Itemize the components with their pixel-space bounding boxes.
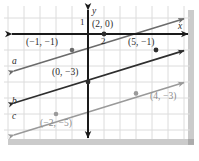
point-label-0-neg3: (0, −3) bbox=[52, 68, 79, 78]
coordinate-plane-figure: x y 1 2 a b c (2, 0) (−1, −1) (5, −1) (0… bbox=[0, 0, 199, 161]
point-label-4-neg3: (4, −3) bbox=[150, 92, 177, 102]
line-label-b: b bbox=[12, 97, 17, 107]
point-label-2-0: (2, 0) bbox=[92, 20, 113, 30]
tick-label-two: 2 bbox=[101, 37, 106, 46]
point-label-neg2-neg5: (−2, −5) bbox=[40, 119, 72, 129]
line-label-a: a bbox=[12, 57, 17, 67]
y-axis-label: y bbox=[92, 7, 96, 17]
line-label-c: c bbox=[12, 112, 16, 122]
point-label-neg1-neg1: (−1, −1) bbox=[26, 38, 58, 48]
tick-label-one: 1 bbox=[80, 18, 85, 27]
x-axis-label: x bbox=[178, 22, 182, 32]
point-label-5-neg1: (5, −1) bbox=[128, 38, 155, 48]
